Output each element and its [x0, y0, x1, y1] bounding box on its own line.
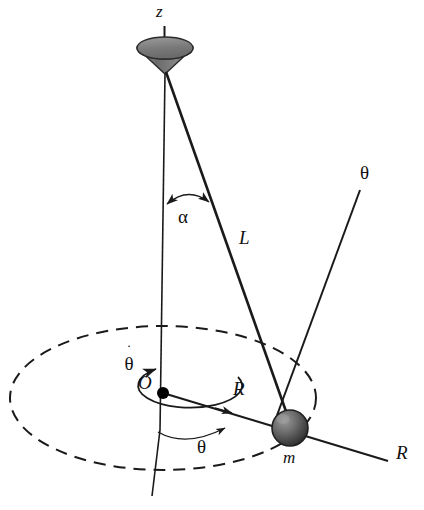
physics-diagram-figure: z α L θ ˙ θ O R θ m R: [0, 0, 424, 510]
radius-axis-label: R: [396, 443, 408, 462]
origin-point: [157, 387, 169, 399]
z-axis-line-lower: [152, 430, 160, 496]
pendulum-mass-sphere: [272, 410, 308, 446]
theta-angle-label: θ: [197, 437, 206, 456]
string-length-label: L: [239, 228, 250, 247]
z-axis-label: z: [156, 3, 163, 20]
theta-axis-line: [276, 190, 360, 418]
radius-mid-label: R: [233, 379, 245, 398]
support-cone-top-ellipse: [137, 37, 193, 59]
theta-angle-arc: [158, 428, 225, 439]
theta-axis-label: θ: [360, 163, 369, 182]
mass-label: m: [283, 449, 295, 466]
alpha-angle-label: α: [178, 207, 188, 226]
string-line-L: [166, 72, 288, 417]
mass-highlight: [277, 414, 290, 424]
origin-label: O: [138, 373, 152, 392]
diagram-canvas: [0, 0, 424, 510]
z-axis-line-main: [160, 73, 165, 430]
angular-velocity-label: ˙ θ: [120, 348, 138, 373]
alpha-angle-arc: [167, 194, 209, 204]
theta-dot-glyph: θ: [120, 354, 138, 373]
